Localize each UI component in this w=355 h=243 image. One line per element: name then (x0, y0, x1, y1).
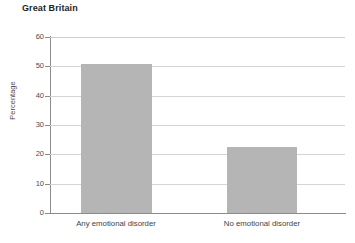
plot-area (50, 37, 345, 213)
y-axis-tick-mark (45, 154, 50, 155)
y-axis-tick-mark (45, 96, 50, 97)
gridline (50, 37, 345, 38)
y-axis-tick-mark (45, 66, 50, 67)
y-axis-tick-label: 0 (12, 209, 44, 217)
y-axis-tick-label: 20 (12, 150, 44, 158)
y-axis-tick-label: 30 (12, 121, 44, 129)
y-axis-tick-label: 60 (12, 33, 44, 41)
bar[interactable] (81, 64, 152, 213)
y-axis-tick-label: 40 (12, 92, 44, 100)
y-axis-tick-mark (45, 37, 50, 38)
y-axis-title: Percentage (8, 51, 17, 151)
y-axis-tick-mark (45, 184, 50, 185)
y-axis-tick-label: 10 (12, 180, 44, 188)
x-axis-line (50, 213, 346, 214)
y-axis-tick-mark (45, 213, 50, 214)
y-axis-tick-label: 50 (12, 62, 44, 70)
x-axis-category-label: No emotional disorder (85, 219, 355, 228)
bar[interactable] (227, 147, 297, 213)
y-axis-tick-mark (45, 125, 50, 126)
